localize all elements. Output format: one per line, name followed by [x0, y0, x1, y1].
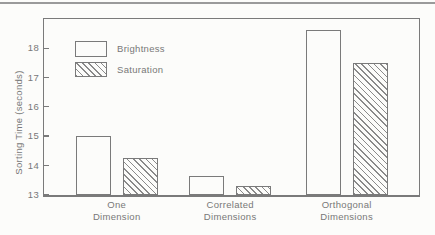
- y-tick-label-13: 13: [0, 189, 39, 200]
- y-tick-label-14: 14: [0, 160, 39, 171]
- x-label-correlated-dimensions: CorrelatedDimensions: [175, 199, 285, 222]
- bar-chart-figure: Sorting Time (seconds) Brightness Satura…: [0, 0, 435, 235]
- x-label-one-dimension: OneDimension: [62, 199, 172, 222]
- legend-label-saturation: Saturation: [117, 62, 163, 77]
- x-label-orthogonal-dimensions: OrthogonalDimensions: [292, 199, 402, 222]
- y-axis-title: Sorting Time (seconds): [13, 43, 26, 203]
- y-tick-label-16: 16: [0, 101, 39, 112]
- y-tick-label-17: 17: [0, 72, 39, 83]
- y-tick-label-15: 15: [0, 130, 39, 141]
- legend: Brightness Saturation: [44, 19, 419, 195]
- plot-area: Brightness Saturation: [43, 18, 420, 197]
- top-rule: [0, 2, 435, 4]
- legend-swatch-brightness: [75, 41, 107, 57]
- legend-label-brightness: Brightness: [117, 41, 165, 57]
- legend-swatch-saturation: [75, 62, 107, 77]
- y-tick-label-18: 18: [0, 42, 39, 53]
